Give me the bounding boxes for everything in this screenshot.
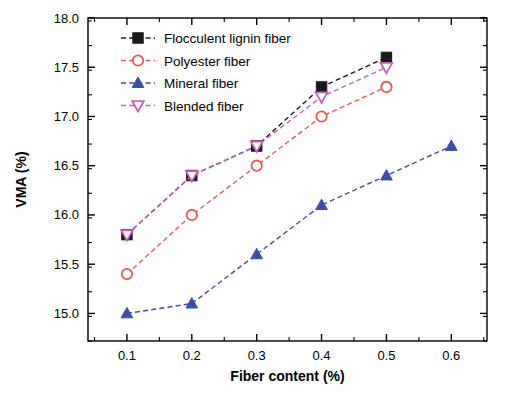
data-point	[316, 111, 326, 121]
x-axis-title: Fiber content (%)	[230, 368, 344, 384]
y-axis-title: VMA (%)	[13, 151, 29, 207]
data-point	[316, 92, 328, 102]
y-axis-ticks: 15.015.516.016.517.017.518.0	[54, 11, 487, 342]
data-point	[316, 82, 326, 92]
legend-label: Polyester fiber	[164, 54, 251, 69]
legend-item-flocculent-lignin-fiber: Flocculent lignin fiber	[121, 31, 291, 46]
legend-marker	[132, 77, 144, 87]
vma-line-chart: 15.015.516.016.517.017.518.0 0.10.20.30.…	[0, 0, 508, 397]
series-blended-fiber	[121, 63, 392, 241]
data-point	[446, 140, 458, 150]
x-tick-label: 0.5	[377, 348, 395, 363]
data-point	[251, 161, 261, 171]
y-tick-label: 15.0	[54, 306, 79, 321]
x-tick-label: 0.1	[118, 348, 136, 363]
x-tick-label: 0.6	[442, 348, 460, 363]
y-tick-label: 18.0	[54, 11, 79, 26]
legend-item-polyester-fiber: Polyester fiber	[121, 54, 251, 69]
legend-item-blended-fiber: Blended fiber	[121, 99, 244, 114]
x-tick-label: 0.3	[248, 348, 266, 363]
series-layer	[121, 52, 457, 318]
data-point	[381, 170, 393, 180]
legend-item-mineral-fiber: Mineral fiber	[121, 76, 239, 91]
y-tick-label: 17.5	[54, 60, 79, 75]
legend-label: Flocculent lignin fiber	[164, 31, 291, 46]
legend-marker	[133, 55, 143, 65]
legend-marker	[132, 101, 144, 111]
x-axis-ticks: 0.10.20.30.40.50.6	[94, 18, 483, 363]
data-point	[381, 52, 391, 62]
legend-marker	[133, 33, 143, 43]
data-point	[122, 269, 132, 279]
legend-label: Mineral fiber	[164, 76, 239, 91]
data-point	[316, 199, 328, 209]
y-tick-label: 17.0	[54, 109, 79, 124]
legend: Flocculent lignin fiberPolyester fiberMi…	[121, 31, 291, 114]
plot-frame	[88, 18, 487, 341]
series-mineral-fiber	[121, 140, 457, 318]
y-tick-label: 16.0	[54, 207, 79, 222]
data-point	[381, 63, 393, 73]
y-tick-label: 16.5	[54, 158, 79, 173]
data-point	[381, 82, 391, 92]
y-tick-label: 15.5	[54, 257, 79, 272]
data-point	[251, 248, 263, 258]
x-tick-label: 0.4	[313, 348, 331, 363]
legend-label: Blended fiber	[164, 99, 244, 114]
data-point	[187, 210, 197, 220]
x-tick-label: 0.2	[183, 348, 201, 363]
chart-container: 15.015.516.016.517.017.518.0 0.10.20.30.…	[0, 0, 508, 397]
data-point	[186, 298, 198, 308]
